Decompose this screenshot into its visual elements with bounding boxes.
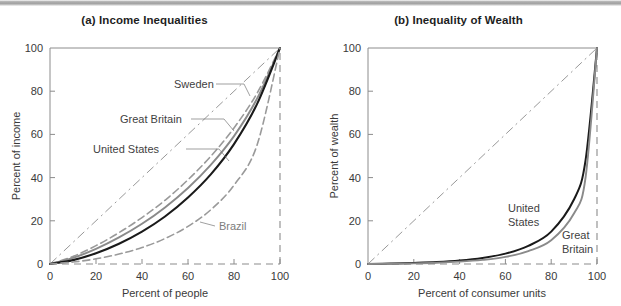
panel-a-ytick-80: 80: [31, 85, 43, 97]
figure-root: (a) Income Inequalities 0204060801000204…: [0, 0, 621, 306]
panel-a-xtick-40: 40: [136, 270, 148, 282]
panel-b-xtick-60: 60: [499, 270, 511, 282]
panel-a-label-brazil: Brazil: [219, 220, 247, 232]
panel-b-y-axis-title: Percent of wealth: [328, 114, 340, 199]
panel-b-xtick-20: 20: [408, 270, 420, 282]
panel-b-xtick-80: 80: [545, 270, 557, 282]
panel-b-plot-area: 020406080100020406080100 United States G…: [310, 0, 621, 306]
chart-panel-inequality-of-wealth: (b) Inequality of Wealth 020406080100020…: [310, 0, 621, 306]
panel-a-leader-brazil: [200, 222, 215, 226]
panel-a-xtick-60: 60: [182, 270, 194, 282]
panel-b-ytick-20: 20: [349, 215, 361, 227]
panel-a-label-sweden: Sweden: [174, 78, 214, 90]
panel-a-ytick-0: 0: [37, 258, 43, 270]
panel-a-leader-sweden: [216, 84, 250, 96]
panel-a-xtick-0: 0: [47, 270, 53, 282]
panel-b-ytick-0: 0: [355, 258, 361, 270]
panel-b-ytick-40: 40: [349, 172, 361, 184]
panel-b-xtick-40: 40: [453, 270, 465, 282]
panel-b-ytick-80: 80: [349, 85, 361, 97]
panel-a-xtick-80: 80: [228, 270, 240, 282]
panel-a-ytick-20: 20: [31, 215, 43, 227]
panel-a-y-axis-title: Percent of income: [10, 112, 22, 201]
panel-b-xtick-100: 100: [588, 270, 606, 282]
panel-a-ytick-100: 100: [25, 42, 43, 54]
panel-a-label-united-states: United States: [93, 143, 160, 155]
panel-b-label-united-states-line1: United: [508, 202, 540, 214]
panel-b-label-united-states-line2: States: [508, 216, 540, 228]
panel-a-xtick-20: 20: [90, 270, 102, 282]
panel-a-leader-great-britain: [191, 119, 234, 131]
panel-a-ytick-60: 60: [31, 128, 43, 140]
panel-b-ytick-60: 60: [349, 128, 361, 140]
panel-a-plot-area: 020406080100020406080100 Sweden Great Br…: [0, 0, 311, 306]
panel-a-ytick-40: 40: [31, 172, 43, 184]
panel-b-label-great-britain-line1: Great: [562, 229, 590, 241]
panel-b-x-axis-title: Percent of consumer units: [418, 287, 546, 299]
panel-a-x-axis-title: Percent of people: [122, 287, 208, 299]
panel-b-ytick-100: 100: [343, 42, 361, 54]
panel-b-label-great-britain-line2: Britain: [562, 243, 593, 255]
panel-a-xtick-100: 100: [271, 270, 289, 282]
panel-b-xtick-0: 0: [365, 270, 371, 282]
panel-a-label-great-britain: Great Britain: [120, 113, 182, 125]
chart-panel-income-inequalities: (a) Income Inequalities 0204060801000204…: [0, 0, 311, 306]
